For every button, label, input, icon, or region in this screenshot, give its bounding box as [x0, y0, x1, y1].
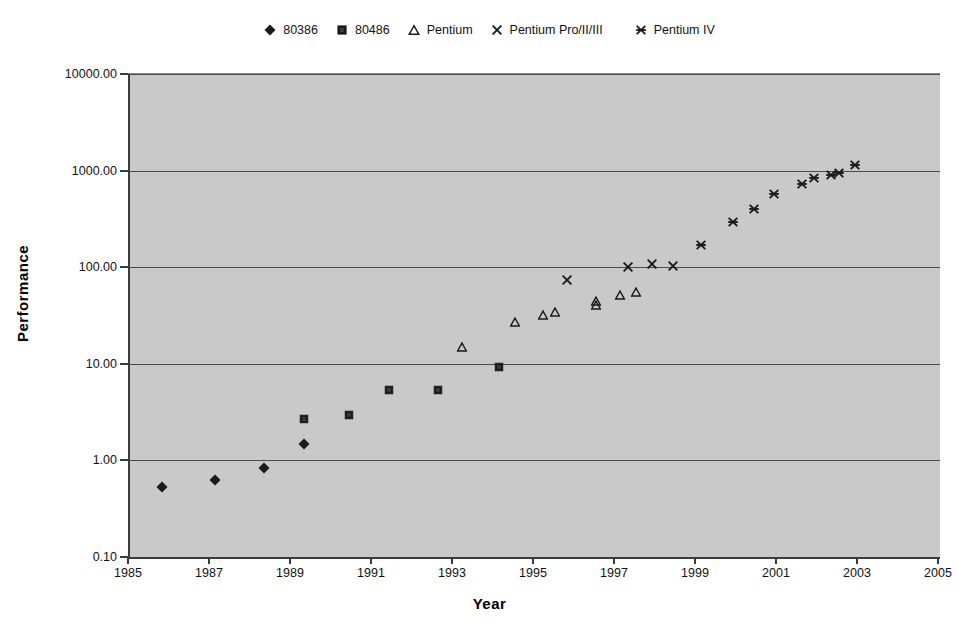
y-axis-tick-label: 10.00	[86, 357, 117, 371]
data-point	[646, 256, 658, 268]
data-point	[343, 406, 354, 417]
x-axis-tick-label: 2003	[843, 566, 871, 580]
y-axis-tick	[120, 170, 128, 172]
data-point	[631, 283, 642, 294]
y-axis-tick	[120, 363, 128, 365]
cross-marker-icon	[491, 24, 504, 37]
legend-entry: Pentium Pro/II/III	[491, 24, 603, 37]
x-axis-tick	[370, 557, 372, 564]
data-point	[509, 314, 520, 325]
data-point	[727, 214, 739, 226]
x-axis-tick	[856, 557, 858, 564]
y-axis-tick-label: 1000.00	[72, 164, 117, 178]
legend-label: Pentium IV	[654, 24, 715, 37]
x-axis-tick	[127, 557, 129, 564]
data-point	[615, 286, 626, 297]
gridline	[130, 364, 940, 365]
x-axis-tick-label: 1989	[276, 566, 304, 580]
data-point	[796, 176, 808, 188]
data-point	[550, 304, 561, 315]
x-axis-tick-label: 1997	[600, 566, 628, 580]
data-point	[156, 479, 168, 491]
y-axis-tick-label: 10000.00	[65, 67, 117, 81]
data-point	[457, 339, 468, 350]
data-point	[695, 237, 707, 249]
x-axis-tick	[289, 557, 291, 564]
x-axis-tick-label: 1999	[681, 566, 709, 580]
data-point	[768, 186, 780, 198]
data-point	[667, 258, 679, 270]
data-point	[538, 307, 549, 318]
data-point	[258, 460, 270, 472]
y-axis-tick	[120, 73, 128, 75]
plot-area	[128, 74, 940, 559]
x-axis-tick	[937, 557, 939, 564]
y-axis-tick	[120, 266, 128, 268]
data-point	[808, 170, 820, 182]
data-point	[299, 410, 310, 421]
data-point	[209, 472, 221, 484]
gridline	[130, 74, 940, 75]
data-point	[432, 382, 443, 393]
asterisk-marker-icon	[635, 24, 648, 37]
data-point	[493, 358, 504, 369]
legend-entry: 80386	[264, 24, 318, 37]
x-axis-tick-label: 2001	[762, 566, 790, 580]
triangle-marker-icon	[408, 24, 421, 37]
x-axis-tick-label: 1993	[438, 566, 466, 580]
y-axis-tick-label: 1.00	[93, 453, 117, 467]
performance-scatter-chart: 8038680486PentiumPentium Pro/II/IIIPenti…	[0, 0, 979, 639]
data-point	[384, 381, 395, 392]
legend-label: Pentium Pro/II/III	[510, 24, 603, 37]
legend-label: Pentium	[427, 24, 473, 37]
x-axis-tick-label: 1991	[357, 566, 385, 580]
data-point	[833, 165, 845, 177]
x-axis-tick-label: 1985	[114, 566, 142, 580]
x-axis-tick	[775, 557, 777, 564]
legend-entry: Pentium IV	[635, 24, 715, 37]
x-axis-tick-label: 1987	[195, 566, 223, 580]
data-point	[748, 201, 760, 213]
x-axis-tick	[694, 557, 696, 564]
x-axis-tick	[532, 557, 534, 564]
legend-label: 80386	[283, 24, 318, 37]
data-point	[590, 292, 601, 303]
square-marker-icon	[336, 24, 349, 37]
y-axis-title: Performance	[14, 194, 31, 394]
data-point	[561, 272, 573, 284]
legend-entry: 80486	[336, 24, 390, 37]
x-axis-title: Year	[0, 595, 979, 612]
x-axis-tick-label: 1995	[519, 566, 547, 580]
y-axis-tick	[120, 459, 128, 461]
data-point	[849, 157, 861, 169]
x-axis-tick	[208, 557, 210, 564]
gridline	[130, 460, 940, 461]
legend-entry: Pentium	[408, 24, 473, 37]
x-axis-tick-label: 2005	[924, 566, 952, 580]
x-axis-tick	[451, 557, 453, 564]
diamond-marker-icon	[264, 24, 277, 37]
data-point	[622, 259, 634, 271]
gridline	[130, 267, 940, 268]
x-axis-tick	[613, 557, 615, 564]
y-axis-tick-label: 100.00	[79, 260, 117, 274]
y-axis-tick-label: 0.10	[93, 550, 117, 564]
chart-legend: 8038680486PentiumPentium Pro/II/IIIPenti…	[0, 24, 979, 37]
data-point	[298, 436, 310, 448]
legend-label: 80486	[355, 24, 390, 37]
